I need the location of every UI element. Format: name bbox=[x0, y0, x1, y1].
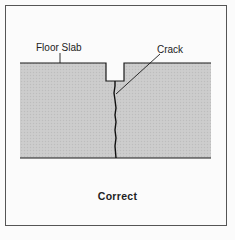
floor-slab-label: Floor Slab bbox=[36, 42, 82, 53]
crack-label: Crack bbox=[157, 44, 184, 55]
caption: Correct bbox=[0, 190, 235, 202]
